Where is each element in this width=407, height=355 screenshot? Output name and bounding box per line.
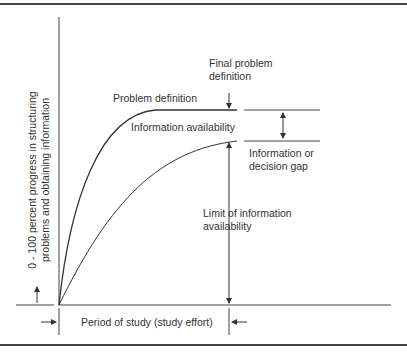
gap-label-1: Information or xyxy=(249,147,314,159)
information-availability-label: Information availability xyxy=(131,121,236,133)
y-axis-label-2: problems and obtaining information xyxy=(39,98,51,262)
final-problem-label-2: definition xyxy=(209,70,251,82)
final-problem-label-1: Final problem xyxy=(209,57,273,69)
problem-definition-label: Problem definition xyxy=(113,92,197,104)
y-axis-label-1: 0 - 100 percent progress in structuring xyxy=(26,91,38,269)
diagram-canvas: Problem definition Information availabil… xyxy=(0,0,407,355)
gap-label-2: decision gap xyxy=(249,160,308,172)
x-axis-label: Period of study (study effort) xyxy=(81,316,213,328)
limit-label-1: Limit of information xyxy=(203,207,292,219)
limit-label-2: availability xyxy=(203,220,252,232)
